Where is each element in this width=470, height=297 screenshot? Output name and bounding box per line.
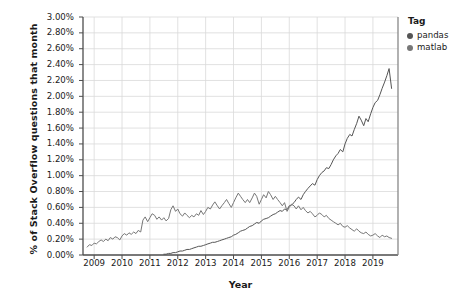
legend-title: Tag [408, 16, 448, 26]
x-tick-label: 2019 [353, 259, 393, 268]
legend-item-matlab[interactable]: matlab [407, 42, 448, 53]
legend: Tag pandasmatlab [407, 16, 448, 54]
legend-item-label: matlab [417, 43, 447, 52]
legend-marker-icon [407, 33, 413, 39]
legend-item-label: pandas [417, 31, 448, 40]
stack-overflow-tag-trend-chart: % of Stack Overflow questions that month… [0, 0, 470, 297]
legend-items: pandasmatlab [407, 30, 448, 53]
legend-item-pandas[interactable]: pandas [407, 30, 448, 41]
x-axis-tick-labels: 2009201020112012201320142015201620172018… [0, 0, 470, 297]
legend-marker-icon [407, 45, 413, 51]
